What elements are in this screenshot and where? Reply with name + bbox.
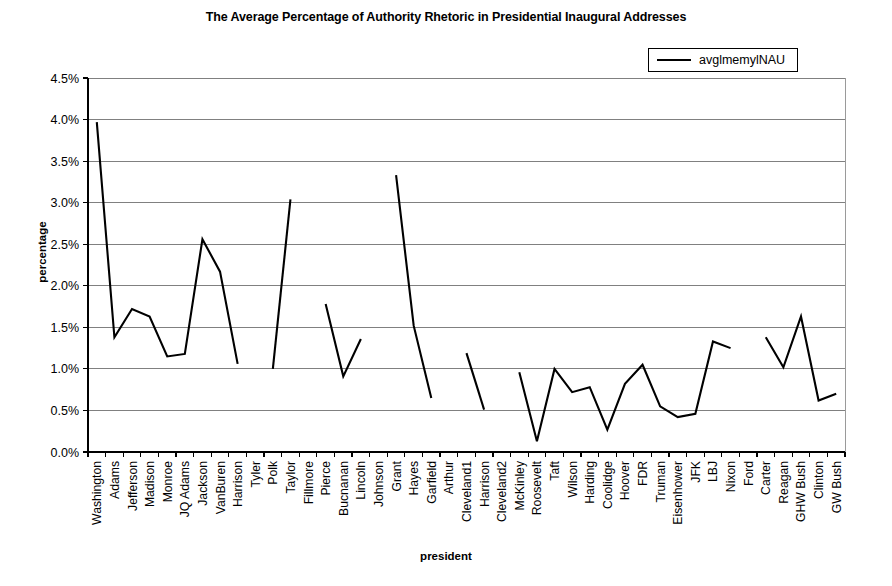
x-tick-label: Grant: [390, 460, 404, 491]
series-line: [326, 304, 361, 376]
x-tick-label: Fillmore: [302, 461, 316, 505]
y-tick-label: 2.0%: [51, 279, 80, 293]
y-tick-label: 3.0%: [51, 196, 80, 210]
y-tick-label: 4.5%: [51, 72, 80, 86]
x-tick-label: Washington: [90, 461, 104, 525]
x-tick-label: Eisenhower: [671, 461, 685, 525]
series-line: [467, 353, 485, 410]
x-tick-label: Taft: [548, 460, 562, 480]
x-tick-label: GHW Bush: [794, 461, 808, 522]
series-line: [519, 341, 730, 441]
x-tick-label: Harding: [583, 461, 597, 504]
x-tick-label: Reagan: [777, 461, 791, 504]
y-tick-label: 1.0%: [51, 362, 80, 376]
x-tick-label: Hoover: [618, 461, 632, 500]
x-tick-label: Wilson: [566, 461, 580, 498]
x-tick-label: Lincoln: [354, 461, 368, 500]
x-tick-label: Jefferson: [126, 461, 140, 511]
x-tick-label: Clinton: [812, 461, 826, 499]
chart-root: The Average Percentage of Authority Rhet…: [0, 0, 892, 586]
series-line: [273, 199, 291, 369]
x-tick-label: Cleveland2: [495, 461, 509, 522]
x-tick-label: Coolidge: [601, 461, 615, 509]
x-tick-label: LBJ: [706, 461, 720, 482]
x-tick-label: Jackson: [196, 461, 210, 506]
x-tick-label: Taylor: [284, 461, 298, 494]
x-tick-label: FDR: [636, 461, 650, 486]
x-tick-label: Nixon: [724, 461, 738, 492]
y-tick-label: 2.5%: [51, 238, 80, 252]
y-tick-label: 4.0%: [51, 113, 80, 127]
x-tick-label: Pierce: [319, 461, 333, 496]
y-tick-label: 0.0%: [51, 446, 80, 460]
x-tick-label: JFK: [689, 461, 703, 483]
x-tick-label: Harrison: [478, 461, 492, 507]
x-tick-label: Polk: [266, 460, 280, 485]
x-tick-label: Truman: [654, 461, 668, 503]
x-tick-label: McKinley: [513, 460, 527, 510]
x-tick-label: Ford: [742, 461, 756, 486]
x-tick-label: Carter: [759, 461, 773, 495]
x-tick-label: Garfield: [425, 461, 439, 504]
series-line: [396, 175, 431, 398]
x-tick-label: Cleveland1: [460, 461, 474, 522]
x-tick-label: Johnson: [372, 461, 386, 507]
y-tick-label: 1.5%: [51, 321, 80, 335]
x-tick-label: JQ Adams: [178, 461, 192, 517]
y-tick-label: 0.5%: [51, 404, 80, 418]
series-line: [766, 317, 836, 401]
y-tick-label: 3.5%: [51, 155, 80, 169]
x-tick-label: Monroe: [161, 461, 175, 503]
x-tick-label: Adams: [108, 461, 122, 499]
plot-area: 0.0%0.5%1.0%1.5%2.0%2.5%3.0%3.5%4.0%4.5%…: [0, 0, 892, 586]
x-tick-label: Arthur: [442, 461, 456, 494]
x-tick-label: Bucnanan: [337, 461, 351, 516]
x-tick-label: Madison: [143, 461, 157, 507]
x-tick-label: Harrison: [231, 461, 245, 507]
x-tick-label: Hayes: [407, 461, 421, 496]
x-tick-label: VanBuren: [214, 461, 228, 514]
x-tick-label: GW Bush: [830, 461, 844, 513]
x-tick-label: Tyler: [249, 461, 263, 487]
x-tick-label: Roosevelt: [530, 460, 544, 515]
